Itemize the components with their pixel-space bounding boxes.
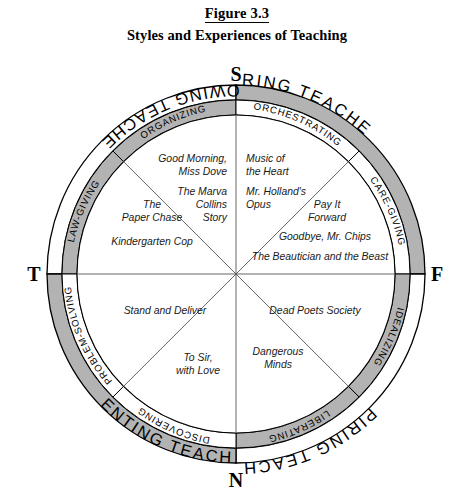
- film-title-line: Stand and Deliver: [124, 305, 207, 316]
- film-title-line: Pay It: [314, 199, 342, 210]
- film-title-line: Goodbye, Mr. Chips: [279, 231, 371, 242]
- film-title-line: Good Morning,: [158, 153, 227, 164]
- radial-spokes: [77, 115, 395, 433]
- teaching-styles-wheel: KNOWING TEACHERS CARING TEACHERS INSPIRI…: [0, 0, 474, 502]
- film-title-line: Opus: [246, 199, 271, 210]
- film-group-idealizing: Dead Poets Society: [269, 305, 361, 316]
- film-title-line: Dead Poets Society: [269, 305, 361, 316]
- film-title-line: Dangerous: [253, 346, 304, 357]
- film-title-line: Mr. Holland's: [246, 186, 306, 197]
- film-title-line: To Sir,: [183, 352, 212, 363]
- axis-letter-left: T: [27, 263, 41, 285]
- film-title-line: the Heart: [246, 166, 290, 177]
- film-title-line: The Beautician and the Beast: [252, 251, 389, 262]
- film-group-problem-solving: Stand and Deliver: [124, 305, 207, 316]
- film-title-line: Miss Dove: [179, 166, 228, 177]
- axis-letter-right: F: [431, 263, 443, 285]
- figure-container: Figure 3.3 Styles and Experiences of Tea…: [0, 0, 474, 502]
- axis-letter-top: S: [230, 63, 241, 85]
- film-title-line: Minds: [264, 359, 292, 370]
- film-title-line: Forward: [308, 212, 347, 223]
- film-title-line: Story: [203, 212, 228, 223]
- film-title-line: Collins: [196, 199, 227, 210]
- film-title-line: The: [143, 199, 161, 210]
- axis-letter-bottom: N: [229, 469, 244, 491]
- film-title-line: The Marva: [177, 186, 227, 197]
- film-title-line: Kindergarten Cop: [111, 236, 193, 247]
- film-title-line: with Love: [176, 365, 220, 376]
- film-title-line: Music of: [246, 153, 286, 164]
- film-title-line: Paper Chase: [122, 212, 183, 223]
